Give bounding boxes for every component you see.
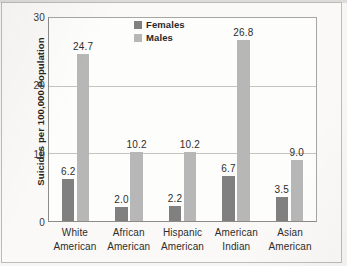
x-axis-categories: WhiteAmericanAfricanAmericanHispanicAmer… bbox=[48, 226, 317, 262]
plot-area: 6.224.72.010.22.210.26.726.83.59.0 bbox=[48, 17, 317, 222]
bar-males-2: 10.2 bbox=[184, 152, 197, 221]
bar-value-label: 2.0 bbox=[114, 194, 129, 205]
x-category-line: American bbox=[263, 240, 317, 254]
y-tick-30: 30 bbox=[23, 12, 45, 23]
y-tick-20: 20 bbox=[23, 80, 45, 91]
y-tick-10: 10 bbox=[23, 148, 45, 159]
bar-males-0: 24.7 bbox=[77, 54, 90, 221]
bar-females-4: 3.5 bbox=[276, 197, 289, 221]
bar-value-label: 24.7 bbox=[73, 41, 93, 52]
bar-value-label: 26.8 bbox=[233, 27, 253, 38]
x-category-label-3: AmericanIndian bbox=[209, 226, 263, 253]
x-category-label-0: WhiteAmerican bbox=[48, 226, 102, 253]
x-category-line: American bbox=[102, 240, 156, 254]
bar-value-label: 6.7 bbox=[221, 163, 236, 174]
bar-females-0: 6.2 bbox=[62, 179, 75, 221]
bar-value-label: 10.2 bbox=[126, 139, 146, 150]
x-category-line: American bbox=[156, 240, 210, 254]
bar-females-3: 6.7 bbox=[222, 176, 235, 221]
legend-label-males: Males bbox=[146, 32, 173, 43]
bar-value-label: 6.2 bbox=[61, 166, 76, 177]
bar-males-1: 10.2 bbox=[130, 152, 143, 221]
x-category-label-1: AfricanAmerican bbox=[102, 226, 156, 253]
legend: Females Males bbox=[134, 19, 185, 45]
bar-males-3: 26.8 bbox=[237, 40, 250, 221]
legend-swatch-females-icon bbox=[134, 21, 142, 29]
x-category-label-2: HispanicAmerican bbox=[156, 226, 210, 253]
x-category-label-4: AsianAmerican bbox=[263, 226, 317, 253]
legend-swatch-males-icon bbox=[134, 34, 142, 42]
x-category-line: American bbox=[209, 226, 263, 240]
bar-females-1: 2.0 bbox=[115, 207, 128, 221]
y-tick-0: 0 bbox=[23, 217, 45, 228]
bar-males-4: 9.0 bbox=[291, 160, 304, 221]
y-axis-ticks: 30 20 10 0 bbox=[20, 17, 45, 222]
x-category-line: Asian bbox=[263, 226, 317, 240]
chart-page: Suicides per 100,000 Population 30 20 10… bbox=[0, 0, 347, 266]
x-category-line: African bbox=[102, 226, 156, 240]
x-category-line: Hispanic bbox=[156, 226, 210, 240]
x-category-line: White bbox=[48, 226, 102, 240]
bar-value-label: 9.0 bbox=[290, 147, 305, 158]
bar-value-label: 3.5 bbox=[275, 184, 290, 195]
legend-item-males: Males bbox=[134, 32, 185, 43]
x-category-line: American bbox=[48, 240, 102, 254]
bar-value-label: 2.2 bbox=[168, 193, 183, 204]
legend-item-females: Females bbox=[134, 19, 185, 30]
bar-females-2: 2.2 bbox=[169, 206, 182, 221]
x-category-line: Indian bbox=[209, 240, 263, 254]
bar-value-label: 10.2 bbox=[180, 139, 200, 150]
legend-label-females: Females bbox=[146, 19, 185, 30]
grouped-bar-chart: Suicides per 100,000 Population 30 20 10… bbox=[0, 0, 347, 266]
